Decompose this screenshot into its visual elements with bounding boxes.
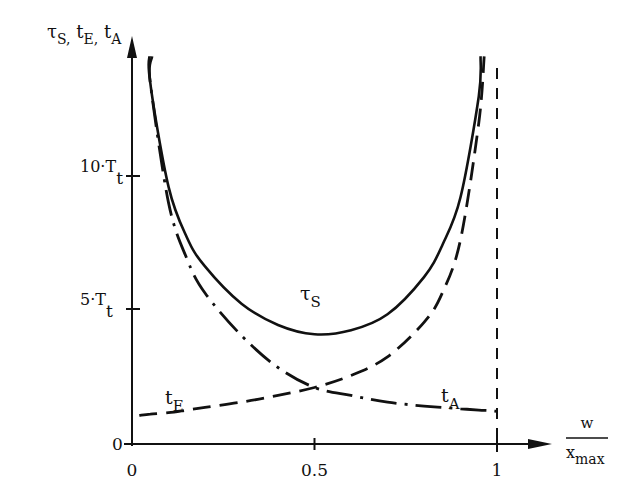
axes bbox=[124, 48, 530, 446]
y-axis-arrow-icon bbox=[127, 36, 137, 58]
y-tick-label: 10·Tt bbox=[80, 157, 123, 188]
chart: 00.5105·Tt10·TtτS, tE, tAwxmaxτStEtA bbox=[0, 0, 639, 494]
y-tick-label: 0 bbox=[112, 434, 123, 454]
curve-t-e bbox=[139, 56, 484, 415]
series-label-tE: tE bbox=[165, 386, 184, 415]
x-tick-label: 1 bbox=[492, 460, 503, 480]
series-label-tA: tA bbox=[441, 384, 460, 413]
x-axis-label-numerator: w bbox=[581, 414, 594, 432]
y-tick-label: 5·Tt bbox=[80, 290, 113, 321]
x-tick-label: 0.5 bbox=[301, 460, 328, 480]
x-axis-arrow-icon bbox=[528, 439, 552, 449]
x-axis-label-denominator: xmax bbox=[566, 443, 605, 467]
series-label-τS: τS bbox=[300, 282, 321, 311]
curve-t-a bbox=[149, 56, 497, 411]
x-tick-label: 0 bbox=[127, 460, 138, 480]
y-axis-label: τS, tE, tA bbox=[47, 21, 122, 47]
